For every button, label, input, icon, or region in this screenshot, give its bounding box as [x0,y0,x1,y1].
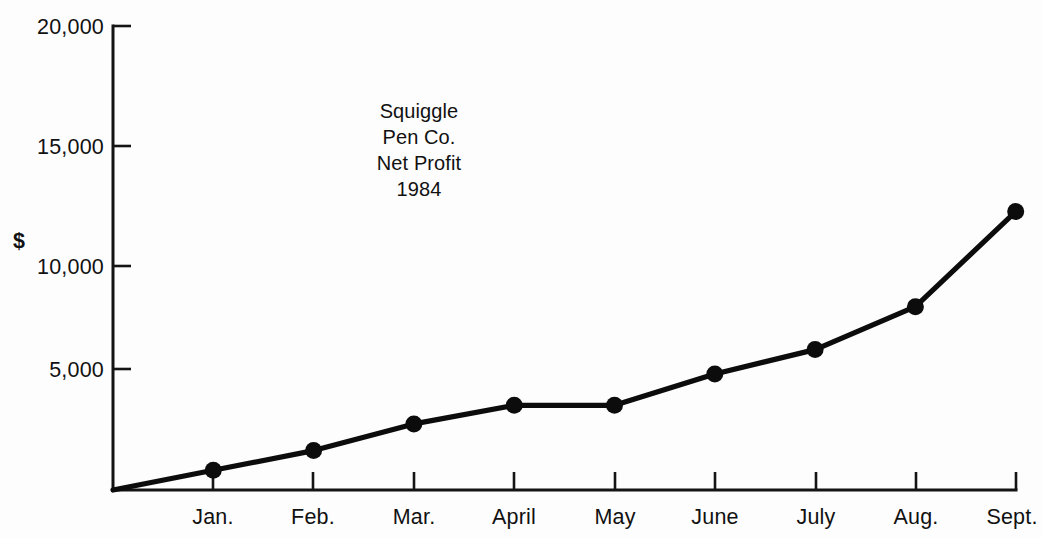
data-point-april [506,397,523,414]
data-point-june [706,366,723,383]
data-line-net-profit [113,212,1016,490]
chart-title-line-1: Squiggle [380,100,459,122]
chart-title-line-2: Pen Co. [383,126,456,148]
data-point-aug [907,298,924,315]
chart-title-line-4: 1984 [397,178,442,200]
data-point-sept [1007,203,1024,220]
data-point-feb [305,442,322,459]
chart-title-line-3: Net Profit [377,152,462,174]
data-point-may [606,397,623,414]
data-point-july [807,341,824,358]
x-tick-label-mar: Mar. [393,505,436,529]
data-point-mar [405,415,422,432]
x-tick-label-may: May [594,505,635,529]
y-tick-label-10000: 10,000 [37,255,104,279]
x-tick-label-april: April [492,505,536,529]
x-tick-label-july: July [796,505,835,529]
data-markers-group [205,203,1024,479]
x-tick-label-sept: Sept. [986,505,1037,529]
y-tick-label-15000: 15,000 [37,135,104,159]
chart-page: 20,000 15,000 10,000 5,000 $ Jan. Feb. M… [0,0,1042,538]
x-tick-label-aug: Aug. [893,505,938,529]
y-axis-unit-label: $ [13,229,25,253]
x-tick-label-jan: Jan. [192,505,233,529]
y-tick-label-5000: 5,000 [49,358,104,382]
line-chart: 20,000 15,000 10,000 5,000 $ Jan. Feb. M… [0,0,1042,538]
x-tick-label-feb: Feb. [291,505,335,529]
y-tick-label-20000: 20,000 [37,15,104,39]
x-tick-label-june: June [691,505,738,529]
data-point-jan [205,462,222,479]
